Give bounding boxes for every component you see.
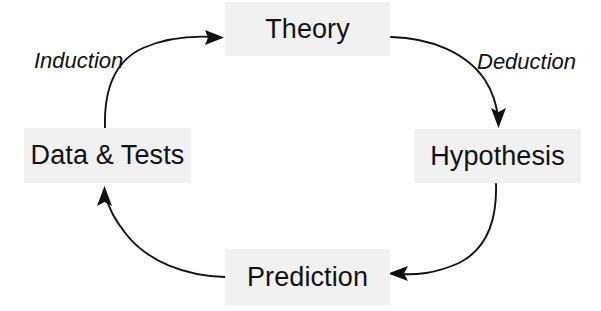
node-theory[interactable]: Theory bbox=[225, 2, 390, 56]
edge-label-deduction: Deduction bbox=[477, 51, 576, 73]
arrow-datatests-to-theory bbox=[105, 30, 224, 128]
node-prediction[interactable]: Prediction bbox=[225, 249, 390, 305]
node-hypothesis[interactable]: Hypothesis bbox=[414, 129, 581, 183]
node-theory-label: Theory bbox=[265, 16, 350, 43]
node-data-and-tests-label: Data & Tests bbox=[31, 142, 185, 169]
node-hypothesis-label: Hypothesis bbox=[430, 143, 565, 170]
arrow-hypothesis-to-prediction bbox=[388, 184, 496, 281]
scientific-method-cycle-diagram: Theory Hypothesis Prediction Data & Test… bbox=[0, 0, 601, 311]
edge-label-induction: Induction bbox=[34, 50, 123, 72]
arrow-prediction-to-datatests bbox=[97, 186, 225, 277]
node-data-and-tests[interactable]: Data & Tests bbox=[24, 128, 191, 183]
node-prediction-label: Prediction bbox=[247, 264, 368, 291]
